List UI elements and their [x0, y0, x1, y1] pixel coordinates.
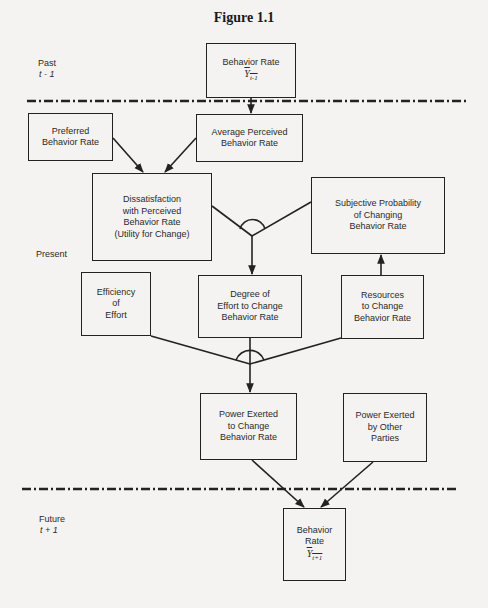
node-label: to Change [228, 421, 270, 433]
edge-preferred-to-dissatisfaction [113, 138, 143, 172]
node-label: (Utility for Change) [114, 229, 189, 241]
node-label: Behavior [297, 525, 333, 537]
node-label: Behavior Rate [221, 312, 278, 324]
y-bar-symbol: Yt+1 [307, 548, 323, 565]
interaction-arc-1 [240, 220, 265, 229]
node-label: with Perceived [123, 206, 182, 218]
node-label: Behavior Rate [354, 313, 411, 325]
node-label: Resources [361, 290, 404, 302]
node-power-exerted-to-change: Power Exerted to Change Behavior Rate [200, 393, 297, 460]
edge-average-to-dissatisfaction [165, 138, 196, 172]
node-behavior-rate-past: Behavior Rate Yt-1 [206, 43, 296, 98]
node-label: Dissatisfaction [123, 194, 181, 206]
node-resources-to-change: Resources to Change Behavior Rate [341, 275, 424, 339]
node-label: Efficiency [97, 287, 135, 299]
node-label: Power Exerted [355, 410, 414, 422]
node-label: of [112, 298, 120, 310]
node-subjective-probability: Subjective Probability of Changing Behav… [311, 177, 445, 254]
node-label: Behavior Rate [349, 221, 406, 233]
node-preferred-behavior-rate: Preferred Behavior Rate [28, 113, 113, 161]
node-behavior-rate-future: Behavior Rate Yt+1 [283, 508, 346, 581]
node-label: Preferred [52, 126, 90, 138]
node-label: Behavior Rate [220, 432, 277, 444]
node-power-exerted-by-others: Power Exerted by Other Parties [343, 393, 427, 462]
node-average-perceived-behavior-rate: Average Perceived Behavior Rate [196, 114, 303, 162]
node-label: Average Perceived [212, 127, 288, 139]
node-label: Behavior Rate [42, 137, 99, 149]
node-label: Behavior Rate [222, 57, 279, 69]
node-label: Behavior Rate [221, 138, 278, 150]
y-bar-symbol: Yt-1 [244, 68, 257, 85]
node-label: Effort [105, 310, 126, 322]
node-label: to Change [362, 301, 404, 313]
node-label: Rate [305, 536, 324, 548]
node-label: Subjective Probability [335, 198, 421, 210]
node-label: Parties [371, 433, 399, 445]
edge-power-to-future [252, 460, 304, 507]
node-label: of Changing [354, 210, 403, 222]
node-degree-of-effort: Degree of Effort to Change Behavior Rate [198, 275, 302, 338]
node-label: Degree of [230, 289, 270, 301]
edge-others-to-future [321, 462, 373, 507]
node-label: by Other [368, 422, 403, 434]
node-label: Power Exerted [219, 409, 278, 421]
node-label: Behavior Rate [123, 217, 180, 229]
node-label: Effort to Change [217, 301, 282, 313]
node-dissatisfaction: Dissatisfaction with Perceived Behavior … [92, 173, 212, 261]
node-efficiency-of-effort: Efficiency of Effort [81, 272, 151, 336]
